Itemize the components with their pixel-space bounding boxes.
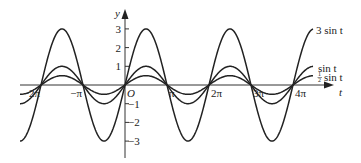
series-label-3sin: 3 sin t xyxy=(316,24,343,36)
svg-text:2: 2 xyxy=(318,77,321,83)
x-axis-label: t xyxy=(339,86,343,98)
x-tick-label: 2π xyxy=(211,87,223,99)
y-tick-label: −1 xyxy=(128,98,140,110)
y-tick-label: 1 xyxy=(116,60,122,72)
x-tick-label: 4π xyxy=(295,87,307,99)
y-tick-label: 2 xyxy=(116,42,122,54)
svg-text:sin t: sin t xyxy=(324,71,343,83)
y-axis-arrow-icon xyxy=(122,9,129,19)
y-tick-label: −2 xyxy=(128,116,140,128)
sine-amplitude-chart: 321−1−2−3 −2π−ππ2π3π4π y t O 3 sin t sin… xyxy=(0,0,361,163)
x-tick-label: −π xyxy=(70,87,82,99)
origin-label: O xyxy=(127,87,135,99)
y-tick-label: −3 xyxy=(128,135,140,147)
y-axis-label: y xyxy=(114,7,120,19)
y-tick-label: 3 xyxy=(116,23,122,35)
